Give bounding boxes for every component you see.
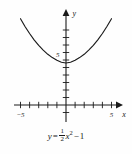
parabola-figure: −5 5 5 x y y=12x2−1 bbox=[0, 0, 132, 154]
equation-constant: 1 bbox=[80, 131, 85, 141]
x-axis-arrow-icon bbox=[116, 102, 123, 109]
x-axis-label: x bbox=[121, 110, 126, 119]
x-tick-label-5: 5 bbox=[110, 111, 114, 119]
equation-expression: y=12x2−1 bbox=[48, 128, 84, 144]
x-axis bbox=[14, 102, 123, 109]
equation-equals: = bbox=[52, 131, 59, 141]
x-tick-label-minus5: −5 bbox=[16, 111, 25, 119]
plot-area: −5 5 5 x y bbox=[0, 0, 132, 124]
y-axis-label: y bbox=[72, 9, 77, 18]
equation-caption: y=12x2−1 bbox=[0, 128, 132, 144]
equation-minus: − bbox=[73, 131, 80, 141]
y-axis-arrow-icon bbox=[63, 9, 70, 16]
y-tick-label-5: 5 bbox=[56, 51, 60, 59]
coordinate-plot: −5 5 5 x y bbox=[0, 0, 132, 124]
